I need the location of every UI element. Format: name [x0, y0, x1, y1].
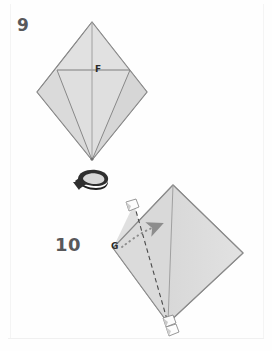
turn-over-arrow — [73, 170, 108, 190]
step-number-9: 9 — [17, 17, 29, 34]
step-9-figure — [37, 22, 147, 161]
point-label-f: F — [95, 65, 101, 74]
origami-diagram-page: 9 10 F G — [0, 0, 272, 351]
step9-upper-flap — [57, 22, 130, 70]
point-label-g: G — [111, 242, 118, 251]
step9-bottom-vertex — [90, 157, 93, 160]
paper-tab-flag-upper — [126, 199, 139, 211]
diagram-canvas — [0, 0, 272, 351]
step10-right-half — [168, 185, 243, 323]
step-10-figure — [113, 185, 243, 336]
step-number-10: 10 — [55, 236, 81, 254]
